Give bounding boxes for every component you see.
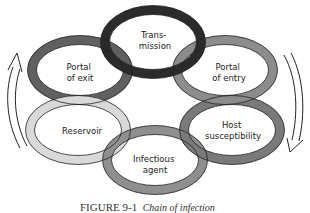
label-host-susceptibility: Host susceptibility — [205, 120, 261, 141]
label-reservoir: Reservoir — [62, 126, 102, 136]
ring-host-susceptibility — [184, 100, 280, 160]
downward-curved-arrow-icon — [284, 53, 303, 152]
label-portal-of-exit: Portal of exit — [66, 62, 94, 83]
chain-of-infection-diagram: Trans- mission Portal of exit Portal of … — [0, 0, 310, 213]
upward-curved-arrow-icon — [8, 53, 27, 148]
label-portal-of-entry: Portal of entry — [212, 62, 245, 83]
label-infectious-agent: Infectious agent — [133, 154, 177, 175]
figure-caption: FIGURE 9-1 Chain of infection — [80, 201, 215, 213]
label-transmission: Trans- mission — [139, 30, 171, 51]
